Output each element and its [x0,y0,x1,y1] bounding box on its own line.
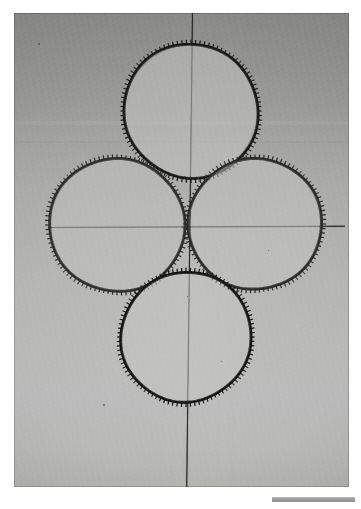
speck-lower-left [103,404,105,406]
screenshot-canvas [0,0,361,509]
speck-bottom-right [221,361,222,362]
bottom-ring [107,258,265,416]
speck-upper-left [38,43,40,45]
speck-right [268,250,269,251]
scale-bar [272,497,355,502]
photograph-print [14,13,349,487]
speck-center [187,296,188,297]
